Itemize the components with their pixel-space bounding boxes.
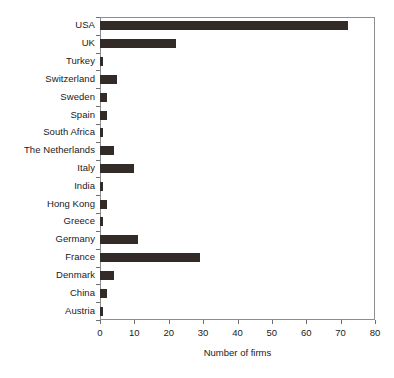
x-tick-20 bbox=[169, 320, 170, 324]
category-label-south-africa: South Africa bbox=[0, 127, 95, 137]
bar-chart: USAUKTurkeySwitzerlandSwedenSpainSouth A… bbox=[0, 0, 394, 378]
bar-usa bbox=[100, 21, 348, 30]
x-tick-10 bbox=[134, 320, 135, 324]
x-tick-label-80: 80 bbox=[355, 327, 394, 338]
bar-germany bbox=[100, 235, 138, 244]
category-label-austria: Austria bbox=[0, 306, 95, 316]
category-tick-12 bbox=[96, 231, 100, 232]
category-label-the-netherlands: The Netherlands bbox=[0, 145, 95, 155]
x-tick-0 bbox=[100, 320, 101, 324]
category-label-germany: Germany bbox=[0, 234, 95, 244]
category-label-greece: Greece bbox=[0, 216, 95, 226]
category-label-switzerland: Switzerland bbox=[0, 74, 95, 84]
bar-italy bbox=[100, 164, 134, 173]
category-label-sweden: Sweden bbox=[0, 92, 95, 102]
bar-south-africa bbox=[100, 128, 103, 137]
bar-hong-kong bbox=[100, 200, 107, 209]
x-tick-40 bbox=[238, 320, 239, 324]
category-tick-14 bbox=[96, 267, 100, 268]
bar-china bbox=[100, 289, 107, 298]
category-tick-5 bbox=[96, 106, 100, 107]
category-label-india: India bbox=[0, 181, 95, 191]
category-tick-8 bbox=[96, 160, 100, 161]
category-label-uk: UK bbox=[0, 38, 95, 48]
category-tick-2 bbox=[96, 53, 100, 54]
category-label-usa: USA bbox=[0, 20, 95, 30]
x-tick-30 bbox=[203, 320, 204, 324]
category-tick-3 bbox=[96, 70, 100, 71]
category-label-italy: Italy bbox=[0, 163, 95, 173]
category-tick-6 bbox=[96, 124, 100, 125]
category-tick-13 bbox=[96, 249, 100, 250]
category-label-china: China bbox=[0, 288, 95, 298]
bar-turkey bbox=[100, 57, 103, 66]
x-tick-70 bbox=[341, 320, 342, 324]
category-tick-4 bbox=[96, 88, 100, 89]
bar-denmark bbox=[100, 271, 114, 280]
category-tick-0 bbox=[96, 17, 100, 18]
category-tick-16 bbox=[96, 302, 100, 303]
category-label-spain: Spain bbox=[0, 110, 95, 120]
category-tick-11 bbox=[96, 213, 100, 214]
category-label-france: France bbox=[0, 252, 95, 262]
bar-uk bbox=[100, 39, 176, 48]
category-label-hong-kong: Hong Kong bbox=[0, 199, 95, 209]
category-tick-15 bbox=[96, 284, 100, 285]
bar-spain bbox=[100, 111, 107, 120]
bar-greece bbox=[100, 217, 103, 226]
bar-austria bbox=[100, 307, 103, 316]
category-tick-1 bbox=[96, 35, 100, 36]
category-tick-7 bbox=[96, 142, 100, 143]
category-label-turkey: Turkey bbox=[0, 56, 95, 66]
bar-the-netherlands bbox=[100, 146, 114, 155]
category-label-denmark: Denmark bbox=[0, 270, 95, 280]
x-tick-80 bbox=[375, 320, 376, 324]
category-tick-9 bbox=[96, 177, 100, 178]
x-tick-50 bbox=[272, 320, 273, 324]
bar-france bbox=[100, 253, 200, 262]
x-axis-title: Number of firms bbox=[100, 347, 375, 358]
x-tick-60 bbox=[306, 320, 307, 324]
bar-sweden bbox=[100, 93, 107, 102]
bar-india bbox=[100, 182, 103, 191]
bar-switzerland bbox=[100, 75, 117, 84]
category-tick-10 bbox=[96, 195, 100, 196]
